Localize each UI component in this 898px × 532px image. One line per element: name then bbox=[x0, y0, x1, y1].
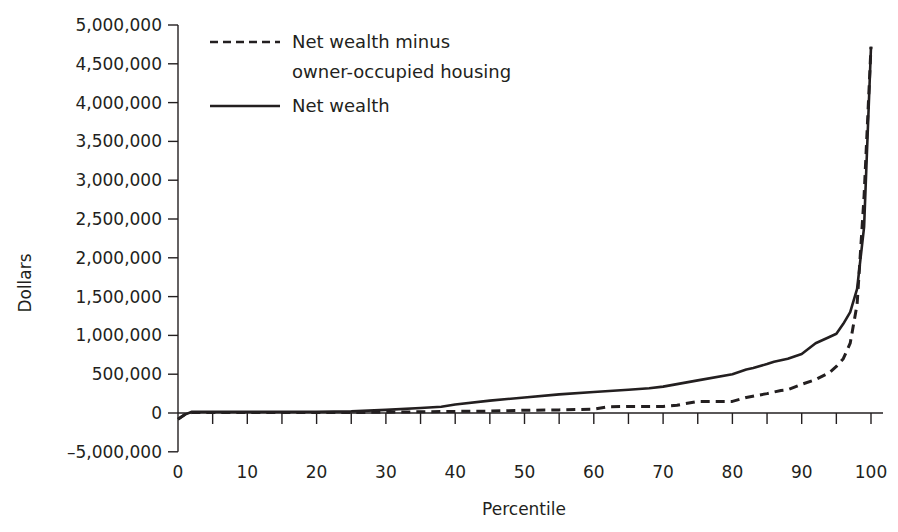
legend-label: Net wealth bbox=[292, 95, 390, 116]
x-tick-label: 50 bbox=[514, 462, 536, 482]
legend: Net wealth minusowner-occupied housingNe… bbox=[210, 31, 511, 116]
x-tick-label: 10 bbox=[236, 462, 258, 482]
x-tick-label: 80 bbox=[722, 462, 744, 482]
x-tick-label: 70 bbox=[652, 462, 674, 482]
y-tick-label: 4,000,000 bbox=[75, 93, 162, 113]
y-tick-label: 3,000,000 bbox=[75, 170, 162, 190]
y-tick-label: 5,000,000 bbox=[75, 15, 162, 35]
x-tick-label: 40 bbox=[444, 462, 466, 482]
y-tick-label: 2,500,000 bbox=[75, 209, 162, 229]
x-tick-label: 30 bbox=[375, 462, 397, 482]
y-tick-label: 0 bbox=[151, 403, 162, 423]
x-tick-label: 20 bbox=[306, 462, 328, 482]
y-tick-label: 500,000 bbox=[92, 364, 162, 384]
x-tick-label: 60 bbox=[583, 462, 605, 482]
legend-label: Net wealth minus bbox=[292, 31, 450, 52]
x-tick-label: 0 bbox=[173, 462, 184, 482]
y-tick-label: –5,000,000 bbox=[67, 442, 162, 462]
x-axis-title: Percentile bbox=[482, 499, 566, 519]
y-axis: 5,000,0004,500,0004,000,0003,500,0003,00… bbox=[67, 15, 178, 462]
y-tick-label: 4,500,000 bbox=[75, 54, 162, 74]
y-tick-label: 3,500,000 bbox=[75, 131, 162, 151]
series-net-wealth bbox=[178, 47, 871, 420]
y-axis-title: Dollars bbox=[15, 253, 35, 312]
x-tick-label: 100 bbox=[855, 462, 887, 482]
y-tick-label: 2,000,000 bbox=[75, 248, 162, 268]
x-axis: 0102030405060708090100 bbox=[173, 413, 888, 482]
y-tick-label: 1,500,000 bbox=[75, 287, 162, 307]
plot-area bbox=[178, 47, 871, 420]
legend-label: owner-occupied housing bbox=[292, 61, 511, 82]
chart: 5,000,0004,500,0004,000,0003,500,0003,00… bbox=[0, 0, 898, 532]
x-tick-label: 90 bbox=[791, 462, 813, 482]
y-tick-label: 1,000,000 bbox=[75, 325, 162, 345]
